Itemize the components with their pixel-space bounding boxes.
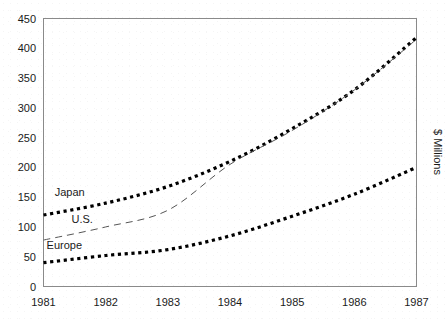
series-line-us (44, 39, 417, 240)
y-axis-title: $ Millions (432, 129, 444, 175)
y-tick-label: 50 (24, 251, 36, 263)
series-inline-labels: JapanU.S.Europe (47, 186, 93, 251)
series-line-europe (44, 167, 417, 262)
y-tick-label: 150 (18, 191, 36, 203)
y-axis-tick-labels: 050100150200250300350400450 (18, 13, 36, 293)
x-axis-tick-labels: 1981198219831984198519861987 (31, 296, 428, 308)
x-tick-label: 1985 (280, 296, 304, 308)
x-tick-label: 1986 (342, 296, 366, 308)
series-label-us: U.S. (71, 213, 92, 225)
y-tick-label: 100 (18, 221, 36, 233)
x-tick-label: 1981 (31, 296, 55, 308)
series-label-japan: Japan (55, 186, 85, 198)
y-tick-label: 450 (18, 13, 36, 25)
x-tick-label: 1987 (404, 296, 428, 308)
y-tick-label: 300 (18, 102, 36, 114)
line-chart: 050100150200250300350400450 198119821983… (0, 0, 445, 323)
y-tick-label: 0 (30, 281, 36, 293)
chart-canvas: 050100150200250300350400450 198119821983… (0, 0, 445, 323)
x-tick-label: 1984 (218, 296, 242, 308)
series-label-europe: Europe (47, 239, 82, 251)
plot-area-frame (44, 19, 417, 287)
data-series-group (44, 38, 417, 263)
series-line-japan (44, 38, 417, 215)
y-tick-label: 400 (18, 42, 36, 54)
x-tick-label: 1982 (93, 296, 117, 308)
y-tick-label: 200 (18, 161, 36, 173)
y-tick-label: 350 (18, 72, 36, 84)
x-tick-label: 1983 (156, 296, 180, 308)
y-tick-label: 250 (18, 132, 36, 144)
